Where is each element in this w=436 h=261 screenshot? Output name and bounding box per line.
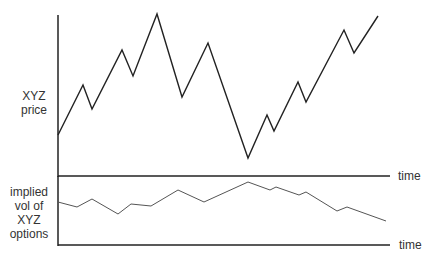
- bottom-ylabel-line4: options: [4, 227, 54, 241]
- bottom-ylabel: implied vol of XYZ options: [4, 185, 54, 241]
- top-ylabel: XYZ price: [14, 89, 54, 117]
- bottom-ylabel-line3: XYZ: [4, 213, 54, 227]
- implied-vol-line: [58, 182, 386, 221]
- chart-canvas: [0, 0, 436, 261]
- top-ylabel-line1: XYZ: [14, 89, 54, 103]
- bottom-ylabel-line1: implied: [4, 185, 54, 199]
- price-line: [58, 14, 378, 158]
- top-xlabel: time: [398, 169, 421, 183]
- bottom-ylabel-line2: vol of: [4, 199, 54, 213]
- top-ylabel-line2: price: [14, 103, 54, 117]
- bottom-xlabel: time: [399, 238, 422, 252]
